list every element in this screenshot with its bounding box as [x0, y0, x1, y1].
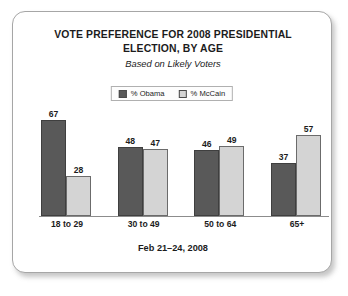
axis-baseline: [39, 216, 329, 217]
bar-group: 3757: [269, 116, 325, 216]
bar-value-label: 48: [125, 136, 135, 146]
chart-title: VOTE PREFERENCE FOR 2008 PRESIDENTIAL EL…: [27, 28, 319, 55]
bar-value-label: 37: [279, 152, 289, 162]
bar-group: 4649: [192, 116, 248, 216]
bar-mccain: 57: [296, 135, 321, 216]
category-label: 18 to 29: [36, 219, 98, 229]
bar-obama: 67: [41, 120, 66, 216]
bar-value-label: 47: [150, 138, 160, 148]
bar-value-label: 28: [74, 165, 84, 175]
legend-swatch-obama: [119, 90, 127, 98]
bar-mccain: 47: [143, 149, 168, 216]
bar-value-label: 46: [202, 139, 212, 149]
legend-item-obama: % Obama: [119, 89, 165, 98]
category-label: 65+: [266, 219, 328, 229]
bar-group: 4847: [116, 116, 172, 216]
legend-item-mccain: % McCain: [179, 89, 226, 98]
bar-value-label: 49: [227, 135, 237, 145]
legend-label-mccain: % McCain: [191, 89, 226, 98]
bar-obama: 48: [118, 147, 143, 216]
bar-mccain: 49: [219, 146, 244, 216]
plot-area: 6728484746493757: [39, 116, 325, 216]
bar-value-label: 67: [49, 109, 59, 119]
bar-value-label: 57: [304, 124, 314, 134]
chart-legend: % Obama % McCain: [111, 86, 233, 101]
bar-group: 6728: [39, 116, 95, 216]
chart-subtitle: Based on Likely Voters: [27, 58, 319, 69]
bar-mccain: 28: [66, 176, 91, 216]
chart-card: VOTE PREFERENCE FOR 2008 PRESIDENTIAL EL…: [12, 11, 332, 273]
category-label: 30 to 49: [113, 219, 175, 229]
category-label: 50 to 64: [189, 219, 251, 229]
bar-obama: 37: [271, 163, 296, 216]
chart-footer-date: Feb 21–24, 2008: [27, 243, 319, 253]
legend-swatch-mccain: [179, 90, 187, 98]
legend-label-obama: % Obama: [131, 89, 165, 98]
bar-obama: 46: [194, 150, 219, 216]
